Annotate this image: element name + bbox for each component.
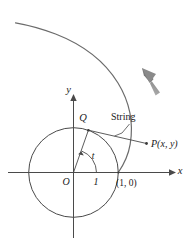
angle-label-t: t [92, 151, 95, 161]
origin-label: O [62, 176, 69, 187]
string-label: String [111, 111, 135, 122]
x-axis-arrow-icon [169, 169, 176, 175]
point-p-label: P(x, y) [150, 138, 178, 150]
point-q-label: Q [79, 112, 87, 123]
point-marker-one-zero [117, 171, 119, 173]
string-segment-QP [88, 130, 146, 143]
x-axis-label: x [177, 165, 183, 176]
figure-canvas: y x O 1 Q String t (1, 0) P(x, y) [0, 0, 193, 244]
radius-segment-OQ [74, 130, 89, 172]
point-marker-P [145, 142, 148, 145]
y-axis-arrow-icon [70, 94, 76, 101]
axes-group [8, 94, 176, 238]
string-leader-line [115, 124, 130, 136]
curve-direction-arrow-icon [142, 68, 160, 96]
y-axis-label: y [65, 84, 71, 95]
point-marker-Q [87, 129, 90, 132]
unit-tick-label: 1 [94, 176, 99, 187]
point-one-zero-label: (1, 0) [116, 178, 137, 189]
involute-figure: y x O 1 Q String t (1, 0) P(x, y) [0, 0, 193, 244]
